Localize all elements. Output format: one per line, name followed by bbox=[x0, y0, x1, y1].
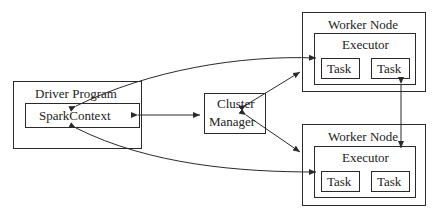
cluster-manager-label-1: Cluster bbox=[217, 96, 255, 112]
driver-program-label: Driver Program bbox=[35, 86, 117, 102]
task-box: Task bbox=[371, 58, 410, 79]
cluster-manager-box: Cluster Manager bbox=[204, 93, 266, 134]
executor-label: Executor bbox=[342, 150, 389, 166]
worker-node-1: Worker Node Executor Task Task bbox=[302, 12, 426, 92]
task-box: Task bbox=[371, 171, 410, 192]
task-label: Task bbox=[377, 61, 401, 77]
driver-program-box: Driver Program SparkContext bbox=[13, 81, 142, 149]
task-label: Task bbox=[377, 174, 401, 190]
worker-node-label: Worker Node bbox=[328, 17, 398, 33]
spark-context-label: SparkContext bbox=[39, 108, 111, 124]
executor-label: Executor bbox=[342, 37, 389, 53]
cluster-manager-label-2: Manager bbox=[209, 114, 255, 130]
worker-node-label: Worker Node bbox=[328, 129, 398, 145]
spark-context-box: SparkContext bbox=[25, 103, 140, 128]
task-box: Task bbox=[321, 58, 360, 79]
task-label: Task bbox=[327, 174, 351, 190]
spark-architecture-diagram: Driver Program SparkContext Cluster Mana… bbox=[0, 0, 435, 219]
task-label: Task bbox=[327, 61, 351, 77]
executor-box: Executor Task Task bbox=[314, 146, 416, 198]
worker-node-2: Worker Node Executor Task Task bbox=[302, 124, 426, 206]
task-box: Task bbox=[321, 171, 360, 192]
executor-box: Executor Task Task bbox=[314, 33, 416, 85]
